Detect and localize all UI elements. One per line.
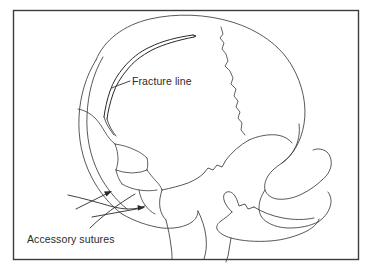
accessory-suture-segment-5	[116, 170, 122, 184]
mandible-alveolar-line	[254, 207, 314, 220]
maxilla-outline	[259, 190, 318, 228]
coronal-suture-jagged-line	[220, 27, 245, 135]
nasal-maxilla-profile	[265, 163, 322, 199]
fracture-line-leader	[112, 81, 130, 88]
sphenoid-base-line	[162, 140, 249, 190]
skull-illustration-figure: Fracture line Accessory sutures	[0, 0, 372, 274]
mandible-ramus-line	[224, 192, 254, 212]
accessory-suture-segment-2	[115, 144, 147, 158]
accessory-suture-segment-6	[147, 170, 162, 190]
zygomatic-arch-line	[313, 149, 331, 180]
cervical-soft-tissue-anterior	[198, 211, 206, 259]
accessory-arrow-head-upper	[104, 191, 112, 197]
accessory-suture-segment-3	[116, 170, 147, 173]
cranial-vault-superior-outline	[96, 15, 305, 163]
accessory-suture-segment-8	[139, 190, 155, 214]
orbital-roof-line	[249, 135, 292, 143]
cervical-soft-tissue-posterior	[166, 220, 172, 259]
label-fracture-line: Fracture line	[132, 76, 192, 87]
accessory-suture-segment-1	[115, 144, 118, 170]
frontal-bone-anterior-line	[282, 124, 299, 163]
fracture-line-leader-stroke	[112, 81, 130, 88]
cranial-inner-table-outline	[87, 57, 127, 209]
cranial-vault-posterior-outline	[79, 60, 122, 214]
posterior-fossa-line	[160, 190, 166, 220]
accessory-suture-segment-4	[147, 158, 148, 170]
accessory-arrow-head-lower	[138, 205, 146, 211]
maxilla-posterior-line	[318, 192, 331, 222]
accessory-arrow-shaft-lower	[92, 208, 142, 217]
mandible-symphysis-line	[226, 238, 231, 262]
accessory-arrow-shaft-upper	[76, 192, 110, 209]
figure-border-frame	[14, 11, 359, 260]
accessory-sutures-group	[115, 144, 162, 214]
skull-base-inferior-sweep	[122, 211, 198, 228]
accessory-suture-segment-7	[122, 184, 157, 191]
accessory-sutures-leader	[68, 191, 145, 228]
label-accessory-sutures: Accessory sutures	[27, 234, 114, 245]
